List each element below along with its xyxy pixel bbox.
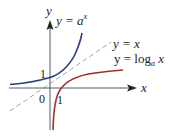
logarithm-label: y = loga x [114,51,164,68]
logarithm-curve [53,70,123,130]
x-tick-one: 1 [57,93,63,107]
exponential-label: y = ax [54,12,88,28]
origin-label: 0 [39,92,45,106]
identity-label: y = x [111,36,140,51]
y-tick-one: 1 [40,67,46,81]
y-axis-label: y [44,3,52,18]
function-graph: y x 0 1 1 y = ax y = x y = loga x [0,0,173,138]
exponential-curve [10,33,82,85]
x-axis-label: x [140,80,147,95]
